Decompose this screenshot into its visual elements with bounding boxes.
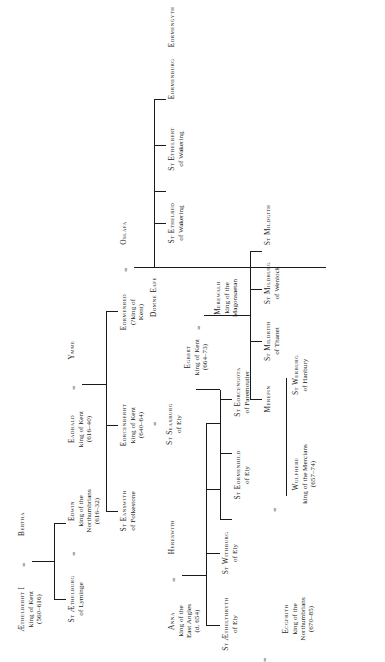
person-detail: Kent) xyxy=(137,280,145,344)
person-name: Wulfhere xyxy=(292,426,301,522)
node-withburg: St Withburg of Ely xyxy=(222,518,239,588)
person-detail: (560–616) xyxy=(35,574,43,644)
connector-v xyxy=(106,311,118,312)
node-eorcengota: St Eorcengota of Faremoutier xyxy=(234,350,251,434)
node-anna: Anna king of the East Angles (d. 654) xyxy=(168,586,202,656)
connector-v xyxy=(182,575,206,576)
marriage-symbol: = xyxy=(71,551,79,556)
person-detail: of Folkestone xyxy=(129,476,137,546)
connector-v xyxy=(154,99,166,100)
connector-v xyxy=(106,511,118,512)
connector-v xyxy=(54,599,66,600)
connector-h xyxy=(250,252,251,400)
node-hereswith: Hereswith xyxy=(168,504,177,570)
person-detail: king of Kent xyxy=(77,396,85,462)
person-name: Eormengyth xyxy=(168,0,177,58)
marriage-symbol: = xyxy=(171,577,179,582)
node-oslafa: Oslafa xyxy=(120,206,129,260)
connector-v xyxy=(154,191,166,192)
person-detail: (?king of xyxy=(129,280,137,344)
node-eormengyth: Eormengyth xyxy=(168,0,177,58)
person-name: Eormenred xyxy=(120,280,129,344)
node-merefin: Merefin xyxy=(264,370,273,428)
connector-h xyxy=(220,390,221,520)
person-detail: of Ely xyxy=(243,436,251,514)
node-mildburg: St Mildburg of Wenlock xyxy=(264,248,281,318)
person-detail: (657–74) xyxy=(309,426,317,522)
marriage-symbol: = xyxy=(272,507,280,512)
connector-v xyxy=(32,561,54,562)
person-name: St Æthelthryth xyxy=(222,586,231,662)
person-name: Edwin xyxy=(68,478,77,544)
person-name: St Seaxburg xyxy=(166,388,175,460)
node-domneeafe: Domne Eafe xyxy=(150,262,159,332)
person-detail: of Wenlock xyxy=(273,248,281,318)
person-name: St Mildgith xyxy=(264,192,273,258)
connector-v xyxy=(204,315,250,316)
connector-v xyxy=(154,267,326,268)
connector-v xyxy=(250,399,262,400)
node-ethelbert: St Ethelbert of Wakering xyxy=(168,114,185,184)
person-name: Merefin xyxy=(264,370,273,428)
person-detail: (616–32) xyxy=(93,478,101,544)
connector-v xyxy=(206,423,220,424)
person-name: St Ethelbert xyxy=(168,114,177,184)
node-edwin: Edwin king of the Northumbrians (616–32) xyxy=(68,478,102,544)
person-detail: king of Kent xyxy=(27,574,35,644)
person-detail: king of the xyxy=(223,260,231,336)
connector-v xyxy=(206,625,220,626)
connector-v xyxy=(206,489,220,490)
node-ethelred: St Ethelred of Wakering xyxy=(168,190,185,256)
person-name: Æthelberht I xyxy=(18,574,27,644)
person-name: Ymme xyxy=(68,322,77,378)
node-bertha: Bertha xyxy=(18,494,27,554)
person-name: St Eorcengota xyxy=(234,350,243,434)
person-name: Merewalh xyxy=(214,260,223,336)
person-detail: of Ely xyxy=(231,518,239,588)
chart-sheet: Æthelberht I king of Kent (560–616) = Be… xyxy=(0,0,385,662)
connector-h xyxy=(54,524,55,600)
person-detail: (664–73) xyxy=(201,324,209,390)
person-name: Hereswith xyxy=(168,504,177,570)
node-aethelthryth: St Æthelthryth of Ely xyxy=(222,586,239,662)
person-name: St Eormenhild xyxy=(234,436,243,514)
person-name: Oslafa xyxy=(120,206,129,260)
node-aethelburg: St Æthelburg of Lyminge xyxy=(68,562,85,636)
node-egbert: Egbert king of Kent (664–73) xyxy=(184,324,209,390)
marriage-symbol: = xyxy=(71,385,79,390)
connector-v xyxy=(250,289,262,290)
marriage-symbol: = xyxy=(21,562,29,567)
person-detail: of Hanbury xyxy=(301,338,309,412)
person-detail: (670–85) xyxy=(307,576,315,662)
person-detail: of Ely xyxy=(175,388,183,460)
node-eadbald: Eadbald king of Kent (616–40) xyxy=(68,396,93,462)
node-mildgith: St Mildgith xyxy=(264,192,273,258)
node-eanswith: St Eanswith of Folkestone xyxy=(120,476,137,546)
person-detail: Northumbrians xyxy=(299,576,307,662)
person-name: St Æthelburg xyxy=(68,562,77,636)
marriage-symbol: = xyxy=(196,325,204,330)
connector-v xyxy=(54,523,66,524)
connector-h xyxy=(206,424,207,626)
person-detail: king of the xyxy=(177,586,185,656)
person-detail: Magonsaetan xyxy=(231,260,239,336)
node-aethelberht1: Æthelberht I king of Kent (560–616) xyxy=(18,574,43,644)
person-detail: king of the xyxy=(291,576,299,662)
genealogy-chart: Æthelberht I king of Kent (560–616) = Be… xyxy=(0,0,385,662)
node-ecgfrith: Ecgfrith king of the Northumbrians (670–… xyxy=(282,576,316,662)
marriage-symbol: = xyxy=(262,657,270,662)
node-seaxburg: St Seaxburg of Ely xyxy=(166,388,183,460)
connector-v xyxy=(220,519,232,520)
person-detail: of Lyminge xyxy=(77,562,85,636)
connector-v xyxy=(250,341,262,342)
person-name: Bertha xyxy=(18,494,27,554)
connector-v xyxy=(250,251,262,252)
connector-v xyxy=(154,223,166,224)
person-name: Ecgfrith xyxy=(282,576,291,662)
person-detail: of Wakering xyxy=(177,190,185,256)
connector-h xyxy=(286,378,287,496)
node-merewalh: Merewalh king of the Magonsaetan xyxy=(214,260,239,336)
person-detail: East Angles xyxy=(185,586,193,656)
person-name: St Withburg xyxy=(222,518,231,588)
person-name: Egbert xyxy=(184,324,193,390)
